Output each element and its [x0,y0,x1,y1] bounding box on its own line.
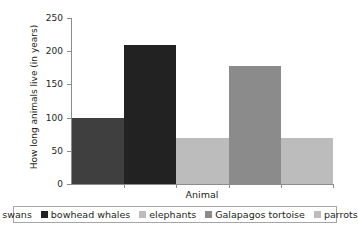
y-tick-mark [67,84,71,85]
legend-label: swans [2,209,32,220]
y-tick-label: 100 [46,113,63,123]
y-tick-mark [67,151,71,152]
plot-area: 050100150200250 How long animals live (i… [0,0,353,200]
legend-swatch-icon [41,211,48,218]
legend-label: Galapagos tortoise [215,209,305,220]
y-tick-label: 50 [52,146,63,156]
legend-item: bowhead whales [41,209,130,220]
bar-series [72,18,333,184]
x-tick-mark [229,184,230,188]
y-tick-mark [67,51,71,52]
y-tick-mark [67,184,71,185]
legend-label: parrots [324,209,358,220]
y-tick-label: 250 [46,13,63,23]
legend-item: elephants [139,209,196,220]
y-axis-title: How long animals live (in years) [29,12,39,182]
y-tick-mark [67,18,71,19]
legend-swatch-icon [205,211,212,218]
bar [229,66,281,184]
bar [124,45,176,184]
x-tick-mark [281,184,282,188]
legend-item: parrots [314,209,358,220]
y-tick-label: 150 [46,79,63,89]
x-tick-mark [176,184,177,188]
legend-swatch-icon [139,211,146,218]
x-axis-title: Animal [71,189,333,200]
y-tick-label: 200 [46,46,63,56]
bar [72,118,124,184]
y-tick-mark [67,118,71,119]
legend-swatch-icon [314,211,321,218]
y-tick: 0 [0,184,71,185]
legend-label: bowhead whales [51,209,130,220]
chart-legend: swansbowhead whaleselephantsGalapagos to… [13,206,337,223]
legend-item: Galapagos tortoise [205,209,305,220]
bar [281,138,333,184]
x-axis-line [71,184,333,185]
x-tick-mark [333,184,334,188]
y-tick-label: 0 [57,179,63,189]
bar [176,138,228,184]
legend-item: swans [0,209,32,220]
legend-label: elephants [149,209,196,220]
x-tick-mark [124,184,125,188]
